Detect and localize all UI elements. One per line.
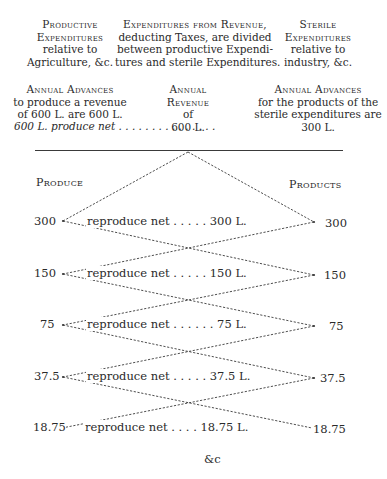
row-300-reproduce: reproduce net . . . . . 300 L.: [86, 214, 248, 228]
row-300-left: 300: [34, 214, 56, 228]
row-37.5-left: 37.5: [34, 369, 60, 383]
row-37.5-right: 37.5: [320, 371, 346, 385]
row-18.75-right: 18.75: [313, 422, 346, 436]
row-150-right: 150: [324, 268, 346, 282]
footer-etc: &c: [204, 452, 221, 466]
row-75-left: 75: [40, 317, 55, 331]
row-18.75-reproduce: reproduce net . . . . 18.75 L.: [84, 420, 249, 434]
row-75-right: 75: [329, 319, 344, 333]
row-37.5-reproduce: reproduce net . . . . . 37.5 L.: [86, 369, 251, 383]
row-150-left: 150: [34, 266, 56, 280]
row-300-right: 300: [325, 216, 347, 230]
row-75-reproduce: reproduce net . . . . . . 75 L.: [86, 317, 248, 331]
zigzag-flow-lines: [0, 0, 387, 479]
row-18.75-left: 18.75: [33, 420, 66, 434]
row-150-reproduce: reproduce net . . . . . 150 L.: [86, 266, 248, 280]
